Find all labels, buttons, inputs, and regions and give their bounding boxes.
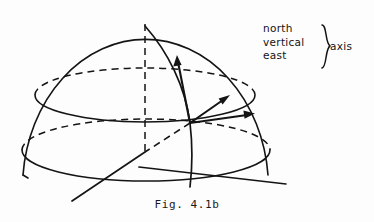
dome-outline: [23, 39, 268, 175]
axis-group-label: axis: [330, 40, 352, 54]
axis-name-east: east: [263, 49, 323, 63]
axis-name-list: north vertical east: [263, 22, 323, 63]
figure-caption: Fig. 4.1b: [0, 198, 374, 211]
axis-name-vertical: vertical: [263, 36, 323, 50]
grouping-brace-icon: [322, 25, 330, 68]
meridian-curve: [145, 26, 192, 187]
base-circle-front-solid: [22, 150, 270, 181]
vector-vertical-arrowhead: [173, 55, 181, 66]
dome-left-flank: [23, 175, 28, 178]
north-line-hidden-dashed: [145, 123, 190, 152]
vector-vertical-shaft: [178, 62, 190, 123]
base-circle-back-dashed: [22, 119, 270, 150]
figure-root: north vertical east axis Fig. 4.1b: [0, 0, 374, 222]
axis-name-north: north: [263, 22, 323, 36]
